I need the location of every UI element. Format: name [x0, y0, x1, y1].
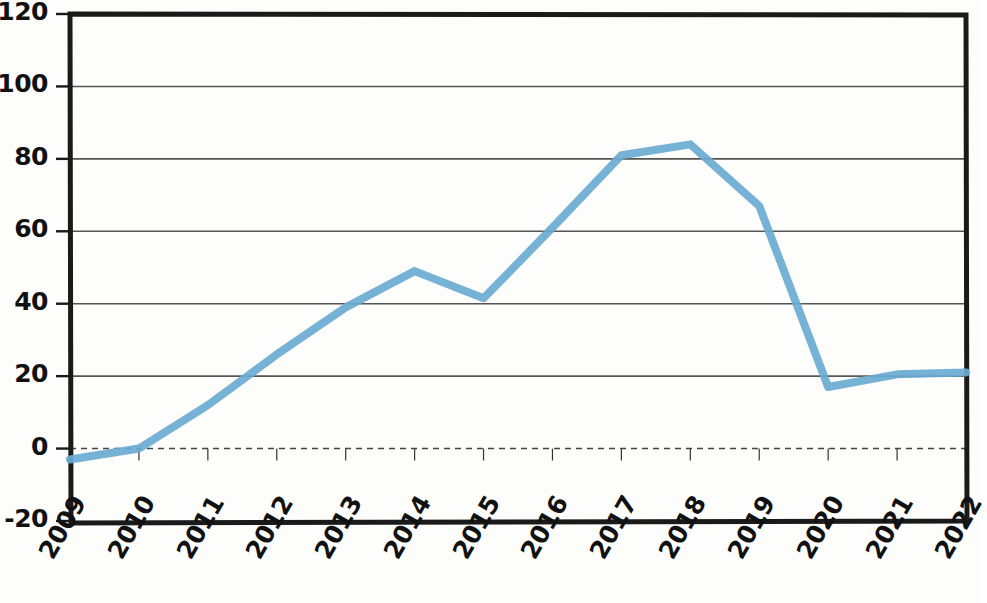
y-axis-label-80: 80 [14, 142, 48, 171]
data-series-line [70, 144, 966, 459]
y-axis-label-40: 40 [14, 287, 48, 316]
y-axis-label-120: 120 [0, 0, 48, 26]
y-axis-label-neg20: -20 [4, 504, 48, 533]
y-axis-label-20: 20 [14, 359, 48, 388]
series-line-1 [70, 144, 966, 459]
x-axis-ticks [139, 449, 966, 461]
axis-frame [70, 14, 967, 523]
y-axis-label-60: 60 [14, 214, 48, 243]
gridlines [70, 86, 966, 376]
plot-area-border [70, 14, 967, 523]
y-axis-label-0: 0 [31, 432, 48, 461]
y-axis-label-100: 100 [0, 69, 48, 98]
